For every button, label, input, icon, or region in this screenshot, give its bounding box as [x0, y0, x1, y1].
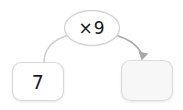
output-box[interactable] [122, 61, 173, 101]
input-box[interactable] [13, 63, 64, 101]
operation-oval[interactable] [65, 11, 120, 46]
arrow-input-to-operation [44, 36, 68, 64]
function-machine-diagram: 7 ×9 [0, 0, 183, 110]
diagram-canvas [0, 0, 183, 110]
arrow-operation-to-output [117, 36, 143, 56]
